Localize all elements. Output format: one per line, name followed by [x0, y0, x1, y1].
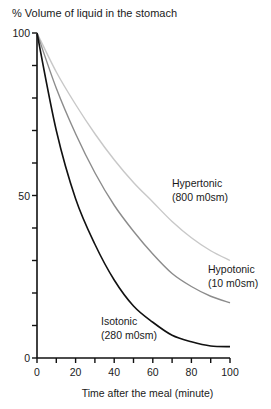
series-sublabel-isotonic: (280 m0sm)	[101, 329, 157, 341]
y-tick-label: 50	[18, 190, 30, 202]
x-tick-label: 80	[186, 366, 198, 378]
x-tick-label: 40	[108, 366, 120, 378]
y-tick-label: 100	[12, 27, 30, 39]
series-sublabel-hypotonic: (10 m0sm)	[208, 277, 258, 289]
series-label-isotonic: Isotonic	[101, 315, 137, 327]
x-tick-label: 60	[147, 366, 159, 378]
x-tick-label: 0	[34, 366, 40, 378]
x-tick-label: 100	[221, 366, 239, 378]
y-tick-label: 0	[24, 352, 30, 364]
series-label-hypertonic: Hypertonic	[172, 177, 222, 189]
x-axis-label: Time after the meal (minute)	[0, 387, 271, 399]
series-sublabel-hypertonic: (800 m0sm)	[172, 191, 228, 203]
x-tick-label: 20	[70, 366, 82, 378]
line-chart: 050100020406080100Hypertonic(800 m0sm)Hy…	[0, 0, 271, 409]
series-label-hypotonic: Hypotonic	[208, 263, 255, 275]
series-line-hypertonic	[37, 33, 230, 261]
series-line-isotonic	[37, 33, 230, 347]
